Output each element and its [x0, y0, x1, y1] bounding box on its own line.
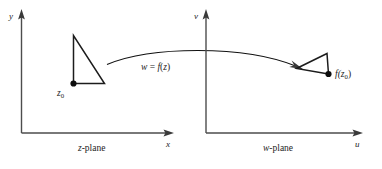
z-plane-triangle-outline — [74, 36, 105, 84]
w-plane-caption: w-plane — [263, 144, 293, 154]
w-plane-point-label-base: z — [341, 69, 345, 79]
complex-mapping-figure: y x z0 z-plane w = f(z) v u f(z0) w-plan… — [0, 0, 382, 169]
z-plane-point-marker — [70, 80, 76, 86]
w-plane-point-label-suffix: ) — [348, 69, 351, 79]
w-plane-v-axis-label: v — [194, 12, 198, 21]
z-plane-caption-suffix: -plane — [82, 143, 106, 153]
mapping-label-equals: = — [147, 62, 157, 72]
w-plane-triangle — [297, 54, 329, 75]
z-plane-caption: z-plane — [78, 144, 105, 154]
w-plane-point-label: f(z0) — [335, 70, 351, 80]
w-plane-point-label-subscript: 0 — [345, 73, 348, 80]
mapping-arrow-group — [107, 51, 304, 70]
z-plane-x-axis-label: x — [166, 140, 170, 149]
z-plane-triangle — [74, 36, 105, 84]
z-plane-axes — [18, 9, 174, 136]
figure-canvas — [0, 0, 382, 169]
z-plane-point-label-subscript: 0 — [61, 92, 64, 99]
mapping-arrow-label: w = f(z) — [141, 63, 170, 73]
w-plane-caption-suffix: -plane — [269, 143, 293, 153]
z-plane-point-label: z0 — [57, 89, 64, 99]
mapping-arrow-curve — [107, 51, 297, 67]
w-plane-triangle-outline — [297, 54, 329, 75]
w-plane-u-axis-label: u — [355, 140, 360, 149]
w-plane-point-marker — [325, 71, 331, 77]
mapping-label-close-paren: ) — [167, 62, 170, 72]
z-plane-y-axis-label: y — [9, 12, 13, 21]
